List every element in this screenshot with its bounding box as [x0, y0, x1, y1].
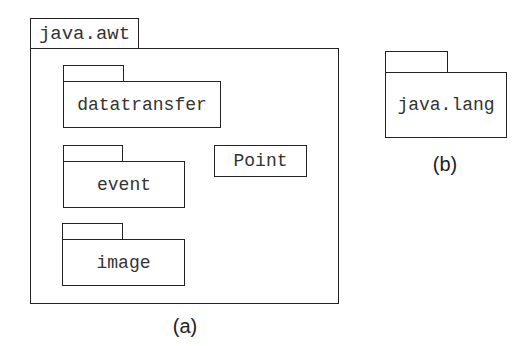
class-label-point: Point	[233, 151, 287, 171]
package-label-event: event	[97, 175, 151, 195]
package-tab-event	[63, 145, 123, 162]
package-label-java-lang: java.lang	[397, 95, 494, 115]
package-label-datatransfer: datatransfer	[77, 95, 207, 115]
caption-a: (a)	[160, 312, 210, 340]
package-body-image: image	[62, 239, 185, 286]
package-label-image: image	[96, 253, 150, 273]
package-body-java-lang: java.lang	[385, 72, 507, 138]
caption-b: (b)	[420, 150, 470, 178]
package-body-datatransfer: datatransfer	[63, 81, 221, 128]
caption-b-text: (b)	[433, 153, 457, 176]
package-label-java-awt: java.awt	[39, 23, 130, 45]
class-point: Point	[214, 145, 307, 177]
package-tab-datatransfer	[63, 65, 124, 82]
caption-a-text: (a)	[173, 315, 197, 338]
package-tab-java-awt: java.awt	[30, 18, 139, 50]
package-tab-java-lang	[385, 51, 448, 74]
package-tab-image	[62, 223, 123, 240]
package-body-event: event	[63, 161, 185, 208]
